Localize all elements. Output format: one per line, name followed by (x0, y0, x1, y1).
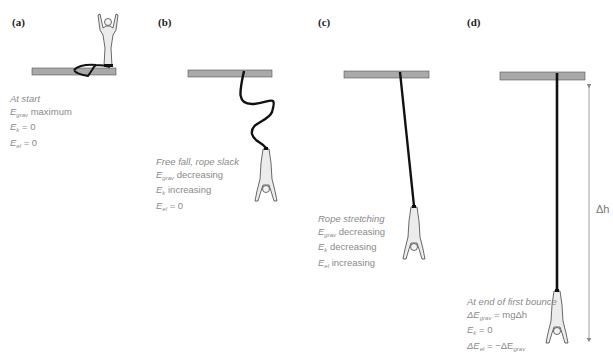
value: maximum (31, 106, 72, 117)
symbol: ΔE (467, 309, 480, 320)
value: decreasing (177, 169, 223, 180)
platform-b (188, 70, 272, 77)
subscript: k (324, 247, 327, 253)
platform-d (500, 72, 585, 80)
caption-b: Free fall, rope slack Egrav decreasing E… (156, 156, 239, 215)
standing-jumper (98, 14, 118, 67)
subscript: el (162, 206, 167, 212)
subscript: k (16, 127, 19, 133)
symbol: ΔE (467, 340, 480, 351)
value: decreasing (339, 226, 385, 237)
subscript: grav (513, 346, 525, 352)
caption-a: At start Egrav maximum Ek = 0 Eel = 0 (10, 93, 72, 152)
subscript: el (324, 263, 329, 269)
value: increasing (332, 257, 375, 268)
caption-title: At end of first bounce (467, 296, 557, 309)
panel-label-d: (d) (467, 16, 480, 28)
subscript: grav (162, 175, 174, 181)
platform-c (344, 71, 429, 78)
panel-label-c: (c) (318, 16, 330, 28)
caption-d: At end of first bounce ΔEgrav = mgΔh Ek … (467, 296, 557, 352)
panel-a-drawing (32, 14, 118, 76)
caption-c: Rope stretching Egrav decreasing Ek decr… (318, 213, 385, 272)
subscript: grav (16, 112, 28, 118)
rope-slack-b (240, 71, 273, 148)
subscript: k (473, 330, 476, 336)
value: = 0 (24, 137, 37, 148)
caption-title: Rope stretching (318, 213, 385, 226)
value: = 0 (479, 324, 492, 335)
subscript: grav (324, 232, 336, 238)
subscript: grav (480, 315, 492, 321)
panel-label-a: (a) (12, 16, 25, 28)
subscript: k (162, 190, 165, 196)
caption-title: At start (10, 93, 72, 106)
value: = −ΔE (487, 340, 513, 351)
value: decreasing (330, 241, 376, 252)
falling-jumper (255, 147, 277, 201)
value: = mgΔh (494, 309, 527, 320)
subscript: el (16, 143, 21, 149)
delta-h-label: Δh (596, 203, 609, 215)
value: increasing (168, 184, 211, 195)
panel-label-b: (b) (158, 16, 171, 28)
value: = 0 (170, 200, 183, 211)
subscript: el (480, 346, 485, 352)
value: = 0 (22, 121, 35, 132)
caption-title: Free fall, rope slack (156, 156, 239, 169)
stretching-jumper (403, 205, 425, 259)
rope-stretching-c (400, 72, 414, 206)
